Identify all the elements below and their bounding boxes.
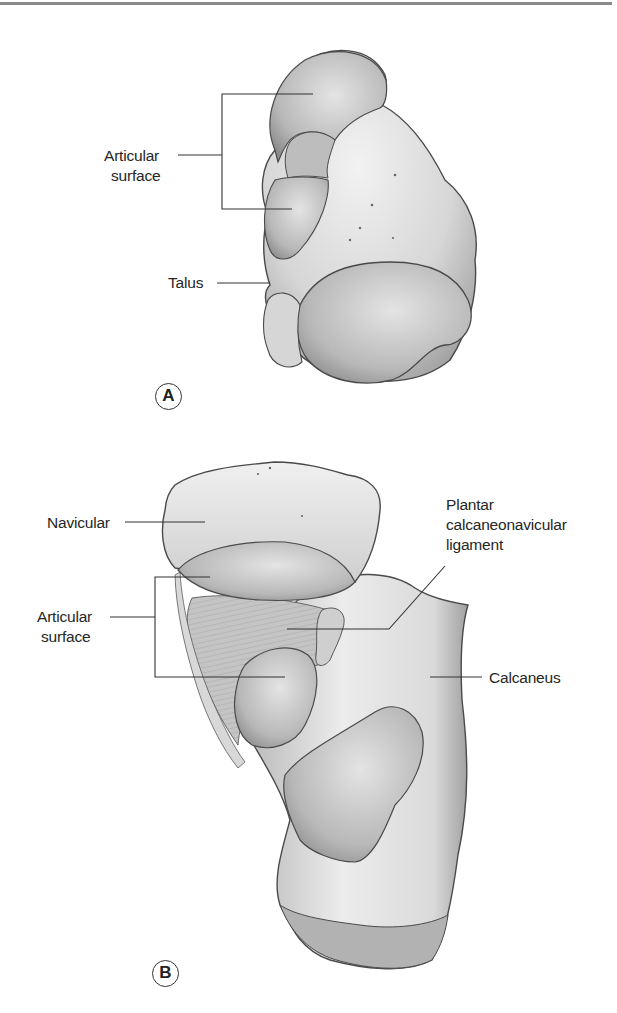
label-articular-surface-a-line2: surface: [111, 166, 160, 185]
calcaneus-drawing: [175, 572, 468, 969]
label-calcaneus: Calcaneus: [489, 668, 560, 687]
label-plantar-line1: Plantar: [446, 495, 494, 514]
label-plantar-line2: calcaneonavicular: [446, 515, 567, 534]
label-articular-surface-b-line2: surface: [41, 627, 90, 646]
anatomy-illustration: [0, 0, 617, 1013]
panel-tag-b: B: [152, 960, 179, 987]
label-articular-surface-a-line1: Articular: [104, 146, 159, 165]
panel-tag-a: A: [155, 383, 182, 410]
label-navicular: Navicular: [47, 513, 110, 532]
label-plantar-line3: ligament: [446, 535, 503, 554]
navicular-drawing: [162, 462, 380, 600]
talus-drawing: [262, 51, 476, 384]
label-articular-surface-b-line1: Articular: [37, 607, 92, 626]
label-talus: Talus: [168, 273, 203, 292]
